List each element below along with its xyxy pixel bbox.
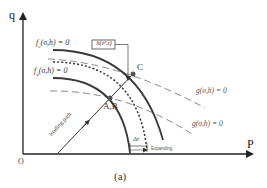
y-axis-label: q: [9, 8, 15, 23]
x-axis-label: P: [247, 137, 254, 152]
h-box-label: h(εᵖ,t): [93, 39, 115, 46]
point-ab-label: A,B: [103, 101, 118, 111]
origin-label: O: [18, 157, 24, 166]
loading-path-arrow: [82, 121, 89, 129]
point-c: [131, 72, 136, 77]
g-lower-label: g(σ,h) = 0: [192, 119, 223, 128]
expanding-label: Expanding: [151, 146, 172, 151]
delta-r-bracket: [130, 143, 147, 152]
point-ab: [108, 96, 113, 101]
fc-label: fc(σ,h) = 0: [36, 38, 69, 49]
delta-r-label: Δr: [133, 135, 139, 142]
point-c-label: C: [137, 62, 143, 72]
axes: [23, 14, 252, 154]
g-upper-label: g(σ,h) = 0: [196, 86, 227, 95]
g-curve-lower: [50, 91, 195, 136]
fd-label: fd(σ,h) = 0: [34, 66, 67, 77]
g-curve-upper: [48, 59, 205, 108]
caption: (a): [114, 170, 126, 182]
